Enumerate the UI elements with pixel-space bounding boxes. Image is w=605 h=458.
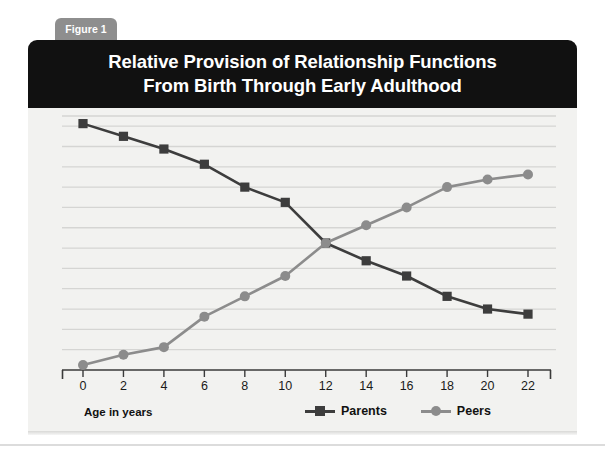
x-tick-label: 14 (351, 379, 381, 393)
legend-item-parents[interactable]: Parents (305, 404, 387, 418)
chart-legend: ParentsPeers (305, 404, 491, 418)
x-tick-label: 12 (311, 379, 341, 393)
x-tick-label: 10 (270, 379, 300, 393)
legend-marker-circle (431, 406, 441, 416)
legend-item-peers[interactable]: Peers (421, 404, 491, 418)
legend-label-peers: Peers (457, 404, 491, 418)
x-tick-label: 20 (473, 379, 503, 393)
x-tick-label: 6 (189, 379, 219, 393)
x-tick-label: 16 (392, 379, 422, 393)
page-divider-rule (0, 444, 605, 446)
figure-title-line-2: From Birth Through Early Adulthood (143, 74, 462, 98)
figure-title-line-1: Relative Provision of Relationship Funct… (108, 50, 496, 74)
x-tick-label: 2 (108, 379, 138, 393)
legend-swatch-parents (305, 405, 335, 417)
x-tick-label: 0 (68, 379, 98, 393)
figure-container: Figure 1 Relative Provision of Relations… (0, 0, 605, 458)
figure-card-shadow (28, 431, 577, 435)
legend-marker-square (315, 406, 325, 416)
legend-label-parents: Parents (341, 404, 387, 418)
x-axis-title: Age in years (84, 406, 152, 418)
figure-title-bar: Relative Provision of Relationship Funct… (28, 40, 577, 108)
x-tick-label: 4 (149, 379, 179, 393)
legend-swatch-peers (421, 405, 451, 417)
figure-number-tab: Figure 1 (55, 18, 117, 40)
figure-number-label: Figure 1 (65, 23, 107, 35)
x-tick-label: 22 (513, 379, 543, 393)
x-tick-label: 18 (432, 379, 462, 393)
x-tick-label: 8 (230, 379, 260, 393)
